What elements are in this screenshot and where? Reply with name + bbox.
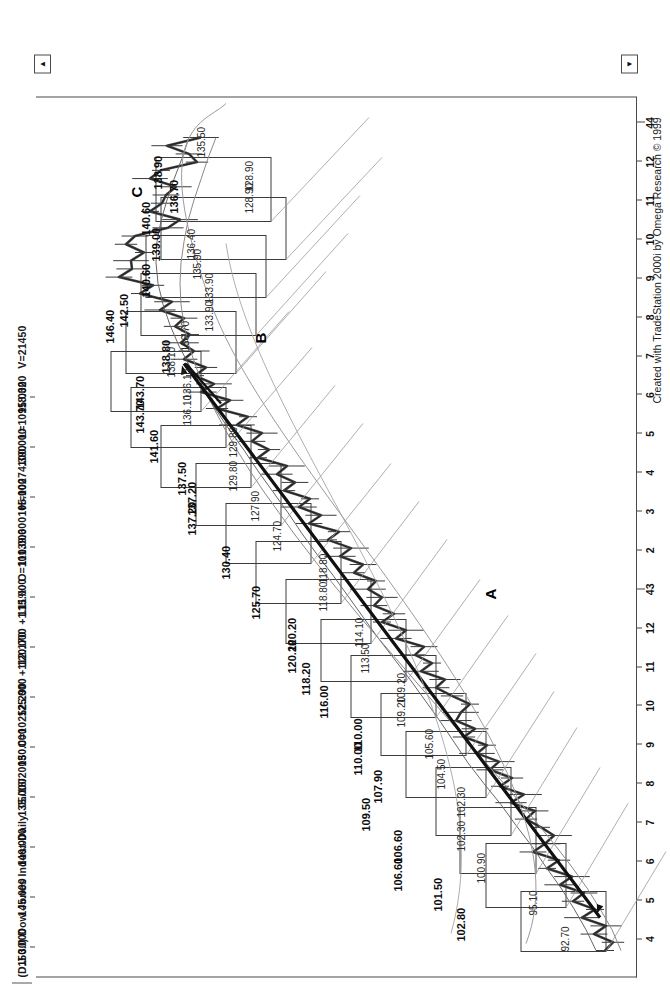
box-price-label: 140.60 xyxy=(140,201,152,235)
box-price-label: 137.50 xyxy=(176,461,188,495)
level-price-label: 136.40 xyxy=(186,228,197,259)
level-price-label: 104.50 xyxy=(436,758,447,789)
box-price-label: 107.90 xyxy=(372,769,384,803)
box-price-label: 136.70 xyxy=(168,179,180,213)
level-price-label: 105.60 xyxy=(424,728,435,759)
box-price-label: 102.80 xyxy=(455,907,467,941)
level-price-label: 114.10 xyxy=(354,617,365,647)
level-price-label: 136.70 xyxy=(180,320,191,351)
box-price-label: 101.50 xyxy=(432,877,444,911)
pivot-letter-c: C xyxy=(128,186,145,197)
level-price-label: 138.10 xyxy=(166,346,177,377)
box-price-label: 142.50 xyxy=(118,293,130,327)
level-price-label: 102.30 xyxy=(456,820,467,851)
level-price-label: 102.30 xyxy=(456,786,467,817)
screenshot-page: (D.J 30) Dow Jones Indust-Daily05/16/200… xyxy=(0,0,670,1003)
level-price-label: 113.50 xyxy=(360,643,371,673)
box-price-label: 130.40 xyxy=(220,545,232,579)
level-price-label: 129.80 xyxy=(228,460,239,491)
box-price-label: 138.90 xyxy=(152,155,164,189)
box-price-label: 140.60 xyxy=(140,263,152,297)
box-price-label: 120.20 xyxy=(286,617,298,651)
level-price-label: 135.50 xyxy=(196,126,207,157)
level-price-label: 129.80 xyxy=(228,426,239,457)
pivot-letter-b: B xyxy=(252,332,269,343)
box-price-label: 109.50 xyxy=(360,797,372,831)
level-price-label: 92.70 xyxy=(560,926,571,951)
box-price-label: 118.20 xyxy=(300,662,312,695)
level-price-label: 95.10 xyxy=(528,890,539,915)
level-price-label: 118.80 xyxy=(318,581,329,611)
level-price-label: 127.90 xyxy=(250,490,261,521)
level-price-label: 133.90 xyxy=(204,272,215,303)
chart-graphics-layer xyxy=(0,0,670,1003)
box-price-label: 143.70 xyxy=(134,375,146,409)
level-price-label: 133.90 xyxy=(204,300,215,331)
level-price-label: 128.90 xyxy=(244,160,255,191)
pivot-letter-a: A xyxy=(482,588,499,599)
level-price-label: 124.70 xyxy=(272,520,283,551)
level-price-label: 109.20 xyxy=(396,672,407,703)
box-price-label: 125.70 xyxy=(250,585,262,619)
copyright-notice: Created with TradeStation 2000i by Omega… xyxy=(651,117,663,403)
chart-window: (D.J 30) Dow Jones Indust-Daily05/16/200… xyxy=(0,0,670,1003)
box-price-label: 141.60 xyxy=(148,429,160,463)
level-price-label: 136.10 xyxy=(182,368,193,399)
box-price-label: 146.40 xyxy=(104,309,116,343)
box-price-label: 106.60 xyxy=(392,829,404,863)
level-price-label: 100.90 xyxy=(476,852,487,883)
box-price-label: 116.00 xyxy=(318,685,330,718)
level-price-label: 118.80 xyxy=(318,553,329,583)
box-price-label: 110.00 xyxy=(352,718,364,751)
